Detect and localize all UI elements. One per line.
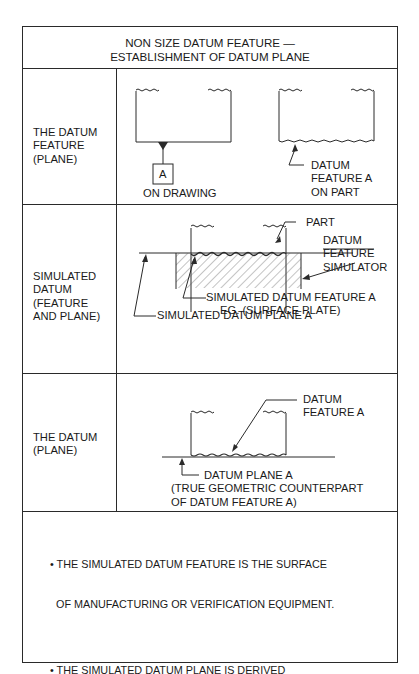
- bullet-2: • THE SIMULATED DATUM PLANE IS DERIVED F…: [50, 638, 347, 674]
- datum-plane-a-label: DATUM PLANE A (TRUE GEOMETRIC COUNTERPAR…: [171, 469, 363, 509]
- datum-feature-a-label: DATUM FEATURE A: [303, 393, 364, 420]
- datum-table: NON SIZE DATUM FEATURE — ESTABLISHMENT O…: [22, 26, 398, 663]
- notes-section: • THE SIMULATED DATUM FEATURE IS THE SUR…: [50, 532, 347, 674]
- bullet-1: • THE SIMULATED DATUM FEATURE IS THE SUR…: [50, 532, 347, 638]
